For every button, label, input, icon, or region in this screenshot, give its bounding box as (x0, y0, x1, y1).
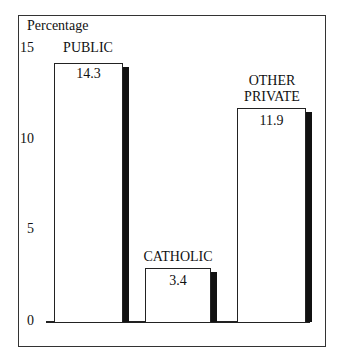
y-tick-0: 0 (14, 313, 34, 329)
bar-label-other-line1: OTHER (230, 73, 314, 89)
bar-value-other-private: 11.9 (237, 113, 306, 129)
y-tick-5: 5 (14, 221, 34, 237)
bar-label-other-private: OTHER PRIVATE (230, 73, 314, 105)
bar-value-catholic: 3.4 (145, 273, 211, 289)
bar-other-private (237, 108, 306, 322)
bar-label-catholic: CATHOLIC (132, 249, 224, 265)
bar-shadow-catholic (210, 272, 217, 322)
bar-public (54, 63, 123, 322)
bar-value-public: 14.3 (54, 66, 123, 82)
y-tick-10: 10 (14, 131, 34, 147)
bar-label-public: PUBLIC (48, 40, 128, 56)
bar-shadow-other-private (305, 112, 312, 322)
y-axis-label: Percentage (27, 18, 88, 34)
bar-shadow-public (122, 67, 129, 322)
y-tick-15: 15 (14, 40, 34, 56)
bar-label-other-line2: PRIVATE (230, 89, 314, 105)
